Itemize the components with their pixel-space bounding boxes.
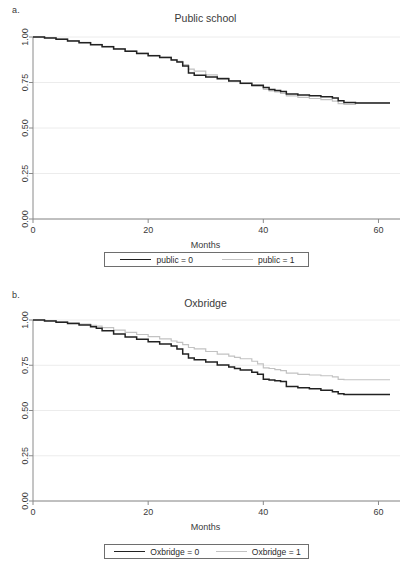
panel-public-school: a. Public school 0.000.250.500.751.00020… [0,0,411,285]
legend-label-public-1: public = 1 [258,255,295,265]
x-tick-label: 20 [143,225,153,235]
legend-label-public-0: public = 0 [156,255,193,265]
y-tick-label: 0.75 [20,74,30,92]
legend-a: public = 0 public = 1 [104,252,309,267]
y-tick-label: 0.50 [20,402,30,420]
survival-curve-group-0 [33,37,390,103]
legend-swatch-light-icon [216,551,247,552]
legend-b: Oxbridge = 0 Oxbridge = 1 [104,544,309,559]
y-tick-label: 0.75 [20,356,30,374]
legend-label-oxbridge-1: Oxbridge = 1 [252,547,301,557]
legend-item-oxbridge-0: Oxbridge = 0 [105,547,207,557]
x-tick-label: 20 [143,507,153,517]
x-tick-label: 0 [30,225,35,235]
legend-label-oxbridge-0: Oxbridge = 0 [150,547,199,557]
y-tick-label: 0.50 [20,119,30,137]
y-tick-label: 1.00 [20,28,30,46]
legend-item-public-0: public = 0 [105,255,207,265]
survival-curve-group-0 [33,320,390,395]
x-tick-label: 40 [258,507,268,517]
x-tick-label: 60 [373,225,383,235]
x-axis-label-a: Months [0,240,411,250]
legend-swatch-light-icon [222,259,253,260]
legend-swatch-dark-icon [114,551,145,552]
x-tick-label: 40 [258,225,268,235]
survival-curve-group-1 [33,37,390,104]
y-tick-label: 1.00 [20,311,30,329]
y-tick-label: 0.00 [20,210,30,228]
y-tick-label: 0.00 [20,492,30,510]
survival-curve-group-1 [33,320,390,380]
legend-item-public-1: public = 1 [207,255,309,265]
x-tick-label: 60 [373,507,383,517]
x-tick-label: 0 [30,507,35,517]
legend-item-oxbridge-1: Oxbridge = 1 [207,547,309,557]
y-tick-label: 0.25 [20,165,30,183]
y-tick-label: 0.25 [20,447,30,465]
legend-swatch-dark-icon [120,259,151,260]
panel-oxbridge: b. Oxbridge 0.000.250.500.751.000204060 … [0,285,411,567]
x-axis-label-b: Months [0,522,411,532]
